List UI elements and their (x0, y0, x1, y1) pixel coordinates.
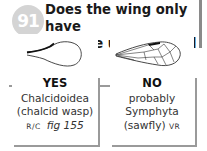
card-shadow (195, 78, 197, 147)
option-no-text: NO probably Symphyta (sawfly) VR (110, 77, 194, 133)
key-step-panel: 91 Does the wing only have a single unbr… (0, 0, 203, 151)
common-name: (chalcid wasp) (12, 105, 98, 119)
card-shadow (14, 145, 100, 147)
figure-link[interactable]: fig 155 (47, 119, 84, 131)
question-line-1: Does the wing only have (45, 1, 205, 35)
card-shadow (98, 78, 100, 147)
wing-single-vein-icon (24, 40, 86, 72)
question-number-badge: 91 (12, 5, 44, 37)
abundance-code: R/C (26, 122, 40, 131)
taxon-name: Symphyta (110, 105, 194, 119)
wing-branched-veins-icon (114, 40, 184, 72)
connector-tick (100, 85, 110, 87)
abundance-code: VR (169, 122, 180, 131)
common-name: (sawfly) (124, 119, 166, 131)
taxon-name: Chalcidoidea (12, 92, 98, 106)
answer-label: YES (12, 77, 98, 91)
answer-label: NO (110, 77, 194, 91)
qualifier: probably (110, 92, 194, 106)
card-shadow (112, 145, 196, 147)
option-yes-text: YES Chalcidoidea (chalcid wasp) R/Cfig 1… (12, 77, 98, 133)
question-number: 91 (17, 11, 39, 31)
